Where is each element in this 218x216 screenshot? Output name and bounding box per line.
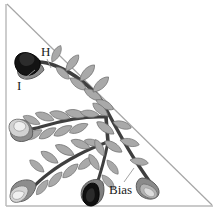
- figure-container: H I Bias: [0, 0, 218, 216]
- label-bias: Bias: [109, 183, 132, 196]
- flower-upper-left-black: [15, 53, 44, 80]
- label-h: H: [41, 45, 50, 58]
- label-i: I: [17, 79, 21, 92]
- flower-bottom-center-black: [81, 179, 104, 206]
- flower-bottom-right-gray: [136, 178, 159, 199]
- leaf-group-middle-branch: [22, 108, 100, 143]
- flower-bottom-left-light: [10, 180, 36, 203]
- leaf-group-upper-branch: [49, 44, 115, 113]
- leader-line-bias: [124, 168, 134, 182]
